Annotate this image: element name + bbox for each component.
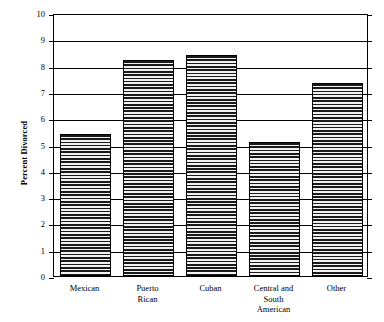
x-axis-tick-label-line: Mexican — [53, 283, 116, 294]
x-axis-tick-label-line: Cuban — [179, 283, 242, 294]
y-axis-tick-label: 5 — [19, 142, 45, 151]
y-axis-tick-label: 10 — [19, 10, 45, 19]
y-axis-tick-right — [367, 41, 372, 42]
y-axis-tick-label: 2 — [19, 220, 45, 229]
y-axis-tick-label: 7 — [19, 89, 45, 98]
y-axis-tick-label: 3 — [19, 194, 45, 203]
x-axis-tick-label-line: American — [242, 304, 305, 315]
bar — [249, 142, 299, 276]
bar — [123, 60, 173, 276]
x-axis-tick-label: PuertoRican — [116, 283, 179, 304]
bar — [312, 83, 362, 276]
x-axis-tick-label-line: South — [242, 294, 305, 305]
y-axis-tick-right — [367, 199, 372, 200]
y-axis-tick-right — [367, 15, 372, 16]
y-axis-tick-label: 0 — [19, 273, 45, 282]
x-axis-tick-label-line: Puerto — [116, 283, 179, 294]
bar — [186, 55, 236, 276]
y-axis-tick-right — [367, 252, 372, 253]
y-axis-tick-right — [367, 120, 372, 121]
y-axis-tick-label: 4 — [19, 168, 45, 177]
x-axis-tick-label: Mexican — [53, 283, 116, 294]
y-axis-tick-label: 8 — [19, 63, 45, 72]
y-axis-tick-right — [367, 278, 372, 279]
x-axis-tick-label-line: Central and — [242, 283, 305, 294]
y-axis-tick-right — [367, 225, 372, 226]
y-axis-tick-right — [367, 173, 372, 174]
plot-area — [53, 14, 368, 277]
y-axis-tick-label: 6 — [19, 115, 45, 124]
y-axis-tick-right — [367, 68, 372, 69]
bar — [60, 134, 110, 276]
y-axis-tick-right — [367, 94, 372, 95]
y-axis-tick-left — [49, 278, 54, 279]
y-axis-tick-label: 1 — [19, 247, 45, 256]
x-axis-tick-label: Other — [305, 283, 368, 294]
x-axis-tick-label: Central andSouthAmerican — [242, 283, 305, 315]
bar-chart: Percent Divorced 012345678910 MexicanPue… — [0, 0, 384, 322]
x-axis-tick-label: Cuban — [179, 283, 242, 294]
y-axis-tick-right — [367, 147, 372, 148]
y-axis-tick-label: 9 — [19, 36, 45, 45]
bars-layer — [54, 15, 367, 276]
x-axis-tick-label-line: Other — [305, 283, 368, 294]
x-axis-tick-label-line: Rican — [116, 294, 179, 305]
